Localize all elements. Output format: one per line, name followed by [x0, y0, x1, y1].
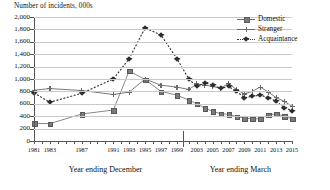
- x-axis-tick: [105, 141, 106, 144]
- x-axis-title-december: Year ending December: [34, 165, 177, 174]
- y-axis-tick-label: 600: [0, 100, 30, 107]
- legend-label-acquaintance: Acquaintance: [256, 35, 298, 43]
- gridline: [34, 91, 292, 92]
- x-axis-tick: [121, 141, 122, 144]
- legend-item-acquaintance[interactable]: Acquaintance: [236, 34, 328, 44]
- legend-item-stranger[interactable]: Stranger: [236, 24, 328, 34]
- data-point-stranger: [158, 83, 163, 88]
- x-axis-tick: [97, 141, 98, 144]
- gridline: [34, 79, 292, 80]
- x-axis-tick: [58, 141, 59, 144]
- x-axis-tick: [229, 141, 230, 144]
- x-axis-tick: [113, 141, 114, 144]
- x-axis-tick: [145, 141, 146, 144]
- x-axis-tick: [153, 141, 154, 144]
- data-point-domestic: [258, 117, 263, 122]
- x-axis-tick: [34, 141, 35, 144]
- y-axis-tick: [30, 17, 34, 18]
- x-axis-tick: [221, 141, 222, 144]
- y-axis-title: Number of incidents, 000s: [14, 2, 93, 10]
- y-axis-tick-label: 1,400: [0, 51, 30, 58]
- x-axis-tick: [284, 141, 285, 144]
- x-axis-tick: [177, 141, 178, 144]
- y-axis-tick-label: 1,200: [0, 63, 30, 70]
- data-point-stranger: [111, 92, 116, 97]
- x-axis-tick: [260, 141, 261, 144]
- x-axis-tick: [197, 141, 198, 144]
- x-axis-title-march: Year ending March: [189, 165, 292, 174]
- chart-legend: Domestic Stranger Acquaintance: [236, 14, 328, 44]
- legend-swatch-stranger: [236, 24, 256, 34]
- x-axis-tick: [292, 141, 293, 144]
- gridline: [34, 67, 292, 68]
- chart-figure: Number of incidents, 000s 02004006008001…: [0, 0, 330, 190]
- y-axis-tick-label: 1,000: [0, 76, 30, 83]
- data-point-stranger: [174, 85, 179, 90]
- y-axis-tick-label: 800: [0, 88, 30, 95]
- y-axis-tick: [30, 116, 34, 117]
- data-point-stranger: [258, 85, 263, 90]
- x-axis-tick: [137, 141, 138, 144]
- gridline: [34, 129, 292, 130]
- x-axis-tick: [205, 141, 206, 144]
- gridline: [34, 116, 292, 117]
- x-axis-tick: [50, 141, 51, 144]
- y-axis-tick: [30, 129, 34, 130]
- data-point-domestic: [127, 69, 132, 74]
- axis-segment-divider: [183, 131, 184, 147]
- data-point-domestic: [111, 108, 116, 113]
- data-point-domestic: [48, 122, 53, 127]
- legend-swatch-acquaintance: [236, 34, 256, 44]
- x-axis-tick: [82, 141, 83, 144]
- y-axis-tick-label: 1,800: [0, 26, 30, 33]
- y-axis-tick-label: 2,000: [0, 14, 30, 21]
- x-axis-tick: [129, 141, 130, 144]
- x-axis-tick: [236, 141, 237, 144]
- x-axis-tick: [244, 141, 245, 144]
- data-point-stranger: [47, 86, 52, 91]
- y-axis-tick-label: 0: [0, 138, 30, 145]
- x-axis-tick: [268, 141, 269, 144]
- legend-label-stranger: Stranger: [256, 25, 282, 33]
- y-axis-tick: [30, 79, 34, 80]
- x-axis-tick-label: 1987: [71, 146, 93, 153]
- y-axis-tick-label: 400: [0, 113, 30, 120]
- data-point-domestic: [175, 93, 180, 98]
- x-axis-tick: [189, 141, 190, 144]
- data-point-domestic: [211, 109, 216, 114]
- y-axis-tick: [30, 67, 34, 68]
- x-axis-tick-label: 1983: [39, 146, 61, 153]
- x-axis-tick: [252, 141, 253, 144]
- y-axis-tick: [30, 29, 34, 30]
- x-axis-tick: [42, 141, 43, 144]
- y-axis-tick: [30, 54, 34, 55]
- y-axis-tick-label: 200: [0, 125, 30, 132]
- x-axis-tick: [74, 141, 75, 144]
- y-axis-tick: [30, 104, 34, 105]
- x-axis-tick: [276, 141, 277, 144]
- legend-swatch-domestic: [236, 14, 256, 24]
- data-point-domestic: [203, 106, 208, 111]
- y-axis-tick: [30, 42, 34, 43]
- x-axis-tick: [169, 141, 170, 144]
- x-axis-tick: [66, 141, 67, 144]
- legend-label-domestic: Domestic: [256, 15, 286, 23]
- x-axis-tick: [90, 141, 91, 144]
- x-axis-tick: [161, 141, 162, 144]
- data-point-domestic: [250, 117, 255, 122]
- gridline: [34, 54, 292, 55]
- y-axis-tick: [30, 91, 34, 92]
- data-point-domestic: [187, 98, 192, 103]
- data-point-domestic: [290, 117, 295, 122]
- x-axis-tick-label: 2015: [281, 146, 303, 153]
- y-axis-tick-label: 1,600: [0, 38, 30, 45]
- gridline: [34, 104, 292, 105]
- x-axis-tick: [213, 141, 214, 144]
- legend-item-domestic[interactable]: Domestic: [236, 14, 328, 24]
- x-axis-tick-label: 1999: [166, 146, 188, 153]
